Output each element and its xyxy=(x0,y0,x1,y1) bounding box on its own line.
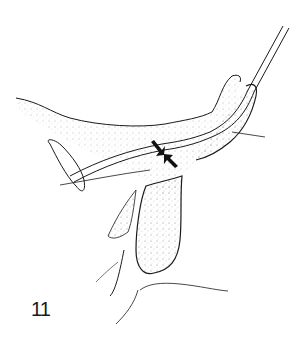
upper-tissue-mass xyxy=(16,75,241,196)
anatomical-drawing xyxy=(0,0,303,348)
vertical-lobe xyxy=(136,176,182,274)
left-oval xyxy=(48,140,84,191)
figure-number-label: 11 xyxy=(31,298,50,321)
